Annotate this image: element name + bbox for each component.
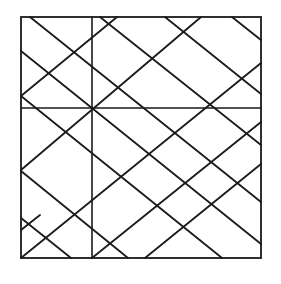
diagonal-line-down-right	[21, 51, 261, 244]
geometric-diagram	[0, 0, 281, 284]
diagonal-line-up-right	[21, 63, 261, 258]
diagonal-line-up-right	[21, 215, 40, 230]
diagonal-line-up-right	[21, 17, 201, 170]
diagonal-line-down-right	[30, 17, 261, 202]
square-frame	[21, 17, 261, 258]
diagonal-line-down-right	[232, 17, 261, 40]
line-group	[21, 17, 261, 258]
diagonal-line-down-right	[100, 17, 261, 145]
diagonal-line-up-right	[92, 122, 261, 258]
diagonal-line-up-right	[21, 17, 117, 96]
